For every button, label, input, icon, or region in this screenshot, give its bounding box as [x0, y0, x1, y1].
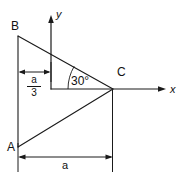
dim-a-arrow-left [18, 154, 26, 159]
geometry-figure: B A C y x 30° a 3 a [0, 0, 183, 181]
y-axis-label: y [56, 9, 62, 20]
dim-a3-arrow-left [19, 70, 26, 75]
angle-label-30deg: 30° [71, 75, 89, 87]
dimension-label-a-over-3: a 3 [27, 75, 41, 98]
fraction-denominator: 3 [27, 88, 41, 99]
vertex-label-c: C [117, 66, 126, 78]
x-axis-label: x [170, 84, 176, 95]
x-axis-arrowhead [158, 86, 166, 92]
dim-a3-arrow-right [44, 70, 51, 75]
vertex-label-b: B [11, 20, 19, 32]
dim-a-arrow-right [106, 154, 114, 159]
vertex-label-a: A [7, 141, 15, 153]
y-axis-arrowhead [48, 15, 54, 23]
axes [48, 15, 166, 92]
fraction-numerator: a [27, 75, 41, 86]
dimension-label-a: a [62, 160, 68, 171]
